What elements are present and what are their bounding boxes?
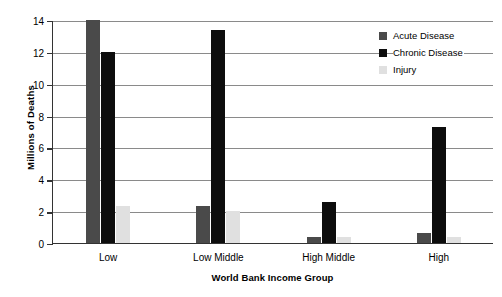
bar <box>447 237 461 243</box>
y-axis-tick-label: 8 <box>38 111 44 122</box>
chart-legend: Acute DiseaseChronic DiseaseInjury <box>379 28 464 79</box>
legend-item: Injury <box>379 62 464 77</box>
y-axis-tick-label: 0 <box>38 239 44 250</box>
bar <box>322 202 336 243</box>
x-axis-tick-label: High <box>429 252 450 263</box>
bar <box>337 237 351 243</box>
bar-group: High Middle <box>274 21 384 243</box>
bar <box>86 20 100 243</box>
bar <box>432 127 446 243</box>
x-axis-tick-label: Low <box>99 252 117 263</box>
bar <box>116 206 130 243</box>
legend-label: Acute Disease <box>393 30 455 41</box>
bar <box>211 30 225 243</box>
bar <box>226 211 240 243</box>
x-axis-tick-label: High Middle <box>302 252 355 263</box>
bar <box>101 52 115 243</box>
legend-label: Injury <box>393 64 417 75</box>
x-axis-tick-label: Low Middle <box>193 252 244 263</box>
x-axis-title: World Bank Income Group <box>52 272 493 283</box>
bar-group: Low <box>53 21 163 243</box>
bar <box>196 206 210 243</box>
bar-group: Low Middle <box>163 21 273 243</box>
bar <box>417 233 431 243</box>
legend-item: Acute Disease <box>379 28 464 43</box>
legend-item: Chronic Disease <box>379 45 464 60</box>
legend-swatch-icon <box>379 66 387 74</box>
y-axis-tick-label: 6 <box>38 143 44 154</box>
y-axis-tick-label: 12 <box>33 47 44 58</box>
y-axis-title: Millions of Deaths <box>25 38 36 218</box>
legend-label: Chronic Disease <box>393 47 464 58</box>
y-axis-tick <box>47 244 53 245</box>
y-axis-tick-label: 14 <box>33 16 44 27</box>
y-axis-tick-label: 2 <box>38 207 44 218</box>
bar <box>307 237 321 243</box>
legend-swatch-icon <box>379 32 387 40</box>
y-axis-tick-label: 4 <box>38 175 44 186</box>
bar-chart: Millions of Deaths 02468101214LowLow Mid… <box>0 0 502 297</box>
y-axis-tick-label: 10 <box>33 79 44 90</box>
legend-swatch-icon <box>379 49 387 57</box>
